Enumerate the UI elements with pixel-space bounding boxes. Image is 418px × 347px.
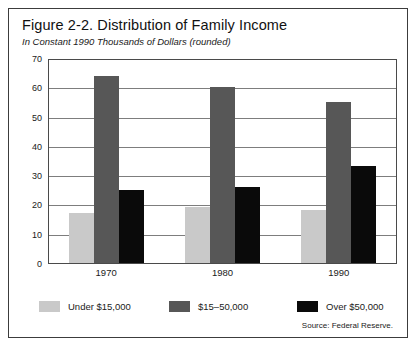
bars-layer: [49, 60, 396, 263]
bar-group-1990: [301, 60, 376, 263]
y-axis-tick-70: 70: [32, 55, 42, 64]
legend-label-series-1: $15–50,000: [198, 301, 248, 312]
figure-heading: Figure 2-2. Distribution of Family Incom…: [22, 17, 392, 48]
legend-label-series-2: Over $50,000: [326, 301, 384, 312]
legend-item-under-15000: Under $15,000: [39, 301, 169, 312]
y-axis-tick-30: 30: [32, 172, 42, 181]
bar-1970-series-2: [119, 190, 144, 263]
legend-swatch-icon-series-2: [297, 301, 318, 312]
chart-legend: Under $15,000 $15–50,000 Over $50,000: [39, 301, 394, 312]
legend-swatch-icon-series-0: [39, 301, 60, 312]
bar-1970-series-0: [69, 213, 94, 263]
x-axis-tick-1990: 1990: [299, 267, 379, 281]
figure-subtitle: In Constant 1990 Thousands of Dollars (r…: [22, 36, 392, 48]
legend-label-series-0: Under $15,000: [68, 301, 131, 312]
bar-group-1980: [185, 60, 260, 263]
x-axis-tick-labels: 197019801990: [48, 267, 397, 281]
legend-item-over-50000: Over $50,000: [297, 301, 394, 312]
bar-1990-series-0: [301, 210, 326, 263]
legend-swatch-icon-series-1: [169, 301, 190, 312]
y-axis-tick-10: 10: [32, 230, 42, 239]
y-axis-tick-0: 0: [37, 260, 42, 269]
y-axis-tick-60: 60: [32, 84, 42, 93]
bar-group-1970: [69, 60, 144, 263]
bar-1970-series-1: [94, 76, 119, 263]
bar-1980-series-2: [235, 187, 260, 263]
bar-1990-series-2: [351, 166, 376, 263]
bar-1990-series-1: [326, 102, 351, 263]
legend-item-15-50000: $15–50,000: [169, 301, 297, 312]
x-axis-tick-1980: 1980: [182, 267, 262, 281]
y-axis-tick-20: 20: [32, 201, 42, 210]
bar-1980-series-1: [210, 87, 235, 263]
y-axis-tick-40: 40: [32, 142, 42, 151]
y-axis-tick-50: 50: [32, 113, 42, 122]
figure-frame: Figure 2-2. Distribution of Family Incom…: [8, 8, 408, 338]
y-axis-tick-labels: 010203040506070: [22, 59, 46, 264]
plot-area: [48, 59, 397, 264]
source-note: Source: Federal Reserve.: [302, 321, 393, 331]
chart-plot-wrapper: 010203040506070 197019801990: [22, 59, 397, 287]
figure-title: Figure 2-2. Distribution of Family Incom…: [22, 17, 392, 34]
x-axis-tick-1970: 1970: [66, 267, 146, 281]
bar-1980-series-0: [185, 207, 210, 263]
